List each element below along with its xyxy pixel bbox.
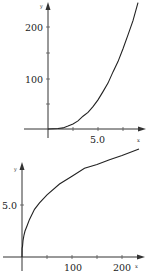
bottom-chart: y x 5.0 100 200 — [2, 149, 145, 273]
bottom-x-tick-200: 200 — [113, 262, 131, 273]
top-x-arrow-icon — [138, 127, 146, 132]
top-y-tick-200: 200 — [25, 22, 43, 33]
bottom-y-tick-5: 5.0 — [2, 200, 17, 211]
top-y-axis-label: y — [39, 3, 43, 10]
top-y-tick-100: 100 — [25, 74, 43, 85]
top-curve — [48, 3, 138, 129]
top-chart: y x 200 100 5.0 — [24, 2, 146, 145]
bottom-curve — [22, 149, 139, 257]
bottom-y-arrow-icon — [20, 162, 25, 170]
top-y-arrow-icon — [46, 2, 51, 10]
bottom-x-tick-100: 100 — [64, 262, 82, 273]
bottom-y-axis-label: y — [13, 166, 17, 173]
bottom-x-arrow-icon — [137, 255, 145, 260]
top-x-axis-label: x — [137, 137, 140, 143]
bottom-x-axis-label: x — [135, 263, 138, 269]
charts-canvas: y x 200 100 5.0 y x 5.0 100 200 — [0, 0, 146, 273]
top-x-tick-5: 5.0 — [90, 134, 105, 145]
